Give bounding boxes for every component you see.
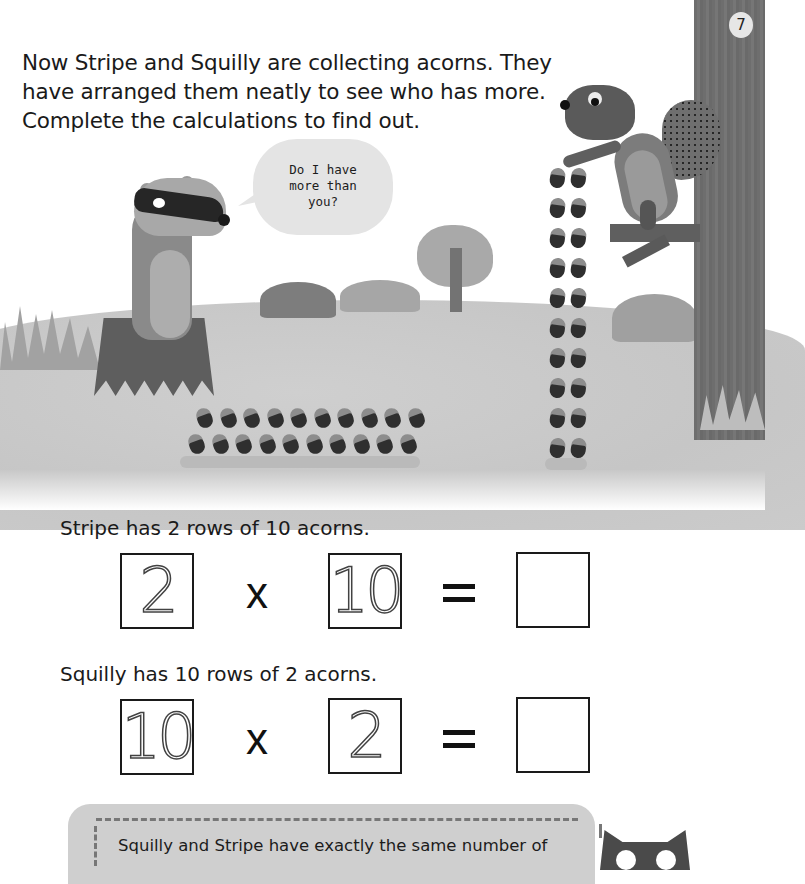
exercise-2-sentence: Squilly has 10 rows of 2 acorns. xyxy=(60,662,377,686)
acorn-row-shadow xyxy=(180,456,420,468)
bush-dark xyxy=(260,282,336,318)
owl-illustration xyxy=(600,830,690,870)
badger-belly xyxy=(150,250,190,338)
badger-eye xyxy=(153,198,165,208)
acorn-icon xyxy=(548,317,568,339)
acorn-icon xyxy=(548,287,568,309)
note-text: Squilly and Stripe have exactly the same… xyxy=(118,836,547,855)
traceable-digit: 10 xyxy=(330,560,401,622)
acorn-icon xyxy=(548,197,568,219)
exercise-1-answer-box[interactable] xyxy=(516,552,590,628)
acorn-icon xyxy=(569,257,589,279)
exercise-2-factor-a-box: 10 xyxy=(120,699,194,775)
acorn-icon xyxy=(548,437,568,459)
squirrel-arm xyxy=(562,139,623,169)
acorn-icon xyxy=(548,377,568,399)
acorn-column-shadow xyxy=(545,458,587,470)
equals-sign xyxy=(443,730,475,748)
stitched-border-right xyxy=(599,824,602,838)
bush-light xyxy=(340,280,420,312)
multiply-sign: x xyxy=(246,568,268,618)
acorn-icon xyxy=(548,347,568,369)
acorn-icon xyxy=(569,347,589,369)
exercise-2-factor-b-box: 2 xyxy=(328,698,402,774)
acorn-icon xyxy=(548,167,568,189)
equals-sign xyxy=(443,584,475,602)
squirrel-leg xyxy=(640,200,656,230)
owl-eye xyxy=(656,850,676,870)
intro-line: have arranged them neatly to see who has… xyxy=(22,77,542,106)
speech-line: you? xyxy=(253,194,393,210)
acorn-icon xyxy=(548,407,568,429)
speech-line: more than xyxy=(253,178,393,194)
acorn-icon xyxy=(569,407,589,429)
acorn-icon xyxy=(569,197,589,219)
exercise-1-factor-a-box: 2 xyxy=(120,553,194,629)
acorn-icon xyxy=(548,257,568,279)
page-number-badge: 7 xyxy=(729,12,753,38)
acorn-icon xyxy=(569,437,589,459)
intro-paragraph: Now Stripe and Squilly are collecting ac… xyxy=(22,48,542,135)
multiply-sign: x xyxy=(246,714,268,764)
hill-fade xyxy=(0,470,765,510)
acorn-icon xyxy=(569,227,589,249)
stitched-border-top xyxy=(96,818,578,821)
acorn-icon xyxy=(569,287,589,309)
acorn-icon xyxy=(569,317,589,339)
bush-right xyxy=(612,294,697,342)
stitched-border-left xyxy=(94,826,97,866)
acorn-icon xyxy=(569,377,589,399)
speech-bubble: Do I have more than you? xyxy=(253,139,393,235)
intro-line: Now Stripe and Squilly are collecting ac… xyxy=(22,48,542,77)
badger-nose xyxy=(218,214,230,226)
squirrel-pupil xyxy=(591,98,599,106)
intro-line: Complete the calculations to find out. xyxy=(22,106,542,135)
speech-line: Do I have xyxy=(253,162,393,178)
exercise-1-factor-b-box: 10 xyxy=(328,553,402,629)
exercise-2-answer-box[interactable] xyxy=(516,697,590,773)
owl-eye xyxy=(616,850,636,870)
big-tree-trunk xyxy=(694,0,765,440)
traceable-digit: 2 xyxy=(139,560,174,622)
acorn-icon xyxy=(548,227,568,249)
traceable-digit: 2 xyxy=(347,705,382,767)
acorn-icon xyxy=(569,167,589,189)
exercise-1-sentence: Stripe has 2 rows of 10 acorns. xyxy=(60,516,370,540)
small-tree-trunk xyxy=(450,248,462,312)
squirrel-nose xyxy=(560,100,570,110)
traceable-digit: 10 xyxy=(122,706,193,768)
